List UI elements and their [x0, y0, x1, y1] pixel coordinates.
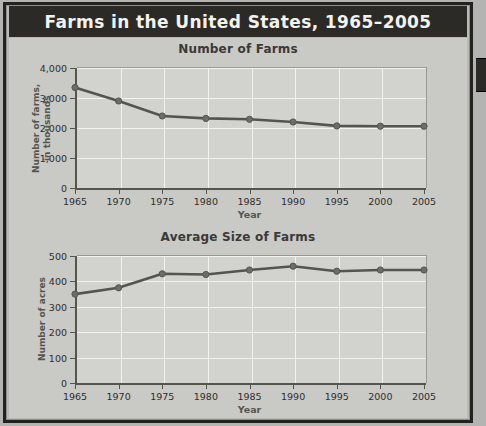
chart1-x-tick-label: 2000 [368, 196, 392, 207]
chart1-x-tick-label: 1990 [281, 196, 305, 207]
chart1-x-tick-label: 1975 [150, 196, 174, 207]
chart2-y-tick-label: 0 [61, 378, 67, 389]
chart2-series [68, 249, 431, 390]
chart1-x-tick-label: 1985 [237, 196, 261, 207]
charts-panel: Number of Farms 01,0002,0003,0004,000196… [9, 38, 467, 418]
chart2-data-point [159, 271, 165, 277]
chart1-x-tick-label: 1980 [194, 196, 218, 207]
chart2-data-point [290, 263, 296, 269]
chart1-x-tick-label: 1970 [107, 196, 131, 207]
chart1-series [68, 61, 431, 195]
chart2-x-axis-title: Year [238, 404, 262, 415]
chart2-y-tick-label: 500 [49, 251, 67, 262]
chart2-data-point [116, 285, 122, 291]
chart2-data-point [203, 271, 209, 277]
chart1-data-point [116, 98, 122, 104]
figure-header-bar: Farms in the United States, 1965–2005 [9, 6, 467, 37]
chart2-y-axis-title: Number of acres [37, 258, 48, 381]
chart2-x-tick-label: 1965 [63, 391, 87, 402]
chart-number-of-farms: Number of Farms 01,0002,0003,0004,000196… [9, 38, 467, 226]
chart1-data-point [377, 123, 383, 129]
chart2-x-tick-label: 1975 [150, 391, 174, 402]
chart2-data-point [246, 267, 252, 273]
chart2-title: Average Size of Farms [9, 226, 467, 244]
chart2-x-tick-label: 2005 [412, 391, 436, 402]
chart2-data-point [72, 291, 78, 297]
chart1-data-point [159, 113, 165, 119]
chart2-y-tick-label: 200 [49, 327, 67, 338]
chart1-y-axis-title: Number of farms, in thousands [31, 70, 53, 186]
chart2-x-tick-label: 1980 [194, 391, 218, 402]
chart1-data-point [72, 84, 78, 90]
chart2-x-tick-label: 1970 [107, 391, 131, 402]
chart1-x-tick-label: 2005 [412, 196, 436, 207]
chart1-data-point [290, 119, 296, 125]
chart1-y-tick-label: 0 [61, 183, 67, 194]
chart2-x-tick-label: 1995 [325, 391, 349, 402]
chart2-data-point [334, 268, 340, 274]
chart1-title: Number of Farms [9, 38, 467, 56]
chart1-data-point [246, 116, 252, 122]
poster-figure: Farms in the United States, 1965–2005 Nu… [0, 0, 486, 426]
chart2-x-tick-label: 2000 [368, 391, 392, 402]
chart1-data-point [203, 115, 209, 121]
chart2-x-tick-label: 1985 [237, 391, 261, 402]
chart2-data-point [421, 267, 427, 273]
page-title: Farms in the United States, 1965–2005 [44, 12, 431, 32]
chart1-x-axis-title: Year [238, 209, 262, 220]
chart2-data-point [377, 267, 383, 273]
right-edge-tab [476, 58, 486, 92]
chart-average-size-of-farms: Average Size of Farms 010020030040050019… [9, 226, 467, 418]
chart1-x-tick-label: 1995 [325, 196, 349, 207]
chart2-y-tick-label: 300 [49, 301, 67, 312]
chart1-x-tick-label: 1965 [63, 196, 87, 207]
chart2-x-tick-label: 1990 [281, 391, 305, 402]
chart1-data-point [421, 123, 427, 129]
chart2-y-tick-label: 400 [49, 276, 67, 287]
chart2-y-tick-label: 100 [49, 352, 67, 363]
chart1-data-point [334, 123, 340, 129]
